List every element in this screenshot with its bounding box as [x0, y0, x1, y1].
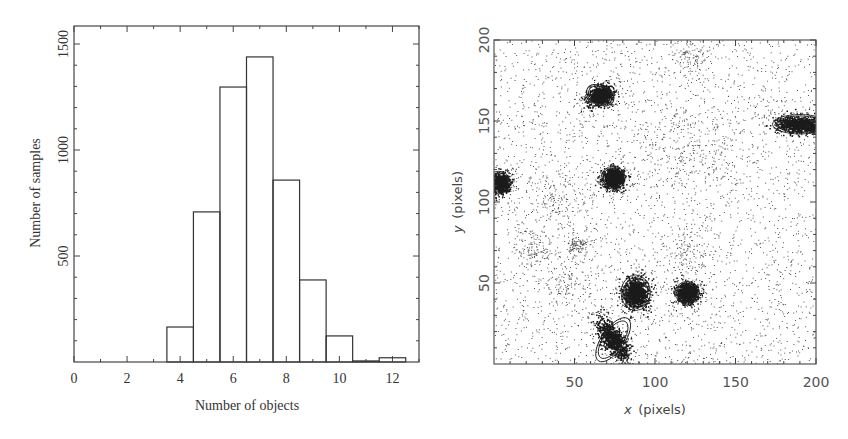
scatter-y-axis-label: y (pixels): [450, 171, 465, 234]
x-tick-label: 8: [283, 371, 290, 386]
histogram-bar: [247, 57, 274, 362]
histogram-y-axis-label: Number of samples: [28, 138, 43, 248]
scatter-points: [474, 33, 843, 395]
figure-canvas: 024681012 50010001500 Number of objects …: [0, 0, 848, 439]
background-samples: [494, 33, 817, 365]
scatter-frame: [494, 40, 816, 364]
y-tick-label: 500: [56, 246, 71, 267]
x-tick-label: 10: [332, 371, 346, 386]
scatter-x-axis-label: x (pixels): [623, 402, 686, 417]
y-tick-label: 1500: [56, 30, 71, 58]
scatter-panel: 50100150200 50100150200 x (pixels) y (pi…: [450, 27, 843, 417]
x-tick-label: 200: [803, 374, 830, 390]
y-tick-label: 150: [476, 108, 492, 135]
x-tick-label: 6: [230, 371, 237, 386]
scatter-y-tick-labels: 50100150200: [476, 27, 492, 292]
x-tick-label: 4: [177, 371, 184, 386]
x-tick-label: 12: [385, 371, 399, 386]
x-tick-label: 50: [566, 374, 584, 390]
histogram-x-tick-labels: 024681012: [71, 371, 400, 386]
histogram-bar: [220, 87, 247, 362]
histogram-bar: [300, 280, 327, 362]
figure: 024681012 50010001500 Number of objects …: [0, 0, 848, 439]
scatter-x-tick-labels: 50100150200: [566, 374, 830, 390]
histogram-bar: [273, 180, 300, 362]
y-tick-label: 100: [476, 189, 492, 216]
histogram-x-axis-label: Number of objects: [195, 398, 299, 413]
y-tick-label: 200: [476, 27, 492, 54]
x-tick-label: 150: [722, 374, 749, 390]
source-samples: [474, 73, 843, 395]
y-tick-label: 1000: [56, 136, 71, 164]
x-tick-label: 100: [642, 374, 669, 390]
histogram-panel: 024681012 50010001500 Number of objects …: [28, 26, 419, 413]
x-tick-label: 0: [71, 371, 78, 386]
histogram-y-tick-labels: 50010001500: [56, 30, 71, 267]
y-tick-label: 50: [476, 274, 492, 292]
histogram-bar: [193, 212, 220, 362]
histogram-bars: [167, 57, 406, 362]
scatter-ticks: [494, 40, 816, 364]
x-tick-label: 2: [124, 371, 131, 386]
